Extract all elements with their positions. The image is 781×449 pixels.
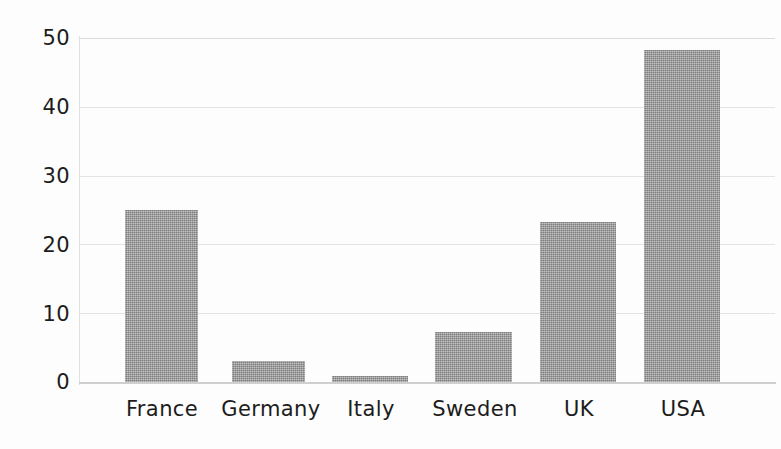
x-tick-label-usa: USA (637, 396, 729, 422)
y-tick-label-50: 50 (8, 28, 70, 49)
bar-uk (540, 222, 616, 382)
y-tick-label-20: 20 (8, 235, 70, 256)
x-axis-line (79, 382, 776, 384)
bar-france (125, 210, 198, 382)
gridline-50 (80, 38, 775, 39)
y-tick-label-30: 30 (8, 166, 70, 187)
x-tick-label-italy: Italy (320, 396, 422, 422)
x-tick-label-sweden: Sweden (415, 396, 535, 422)
y-tick-label-10: 10 (8, 304, 70, 325)
y-axis-line (79, 36, 80, 385)
plot-area (80, 38, 775, 382)
y-tick-label-0: 0 (8, 372, 70, 393)
x-axis-tick-labels: France Germany Italy Sweden UK USA (0, 396, 781, 430)
y-axis-tick-labels: 50 40 30 20 10 0 (0, 0, 70, 449)
bar-sweden (435, 332, 512, 382)
y-tick-label-40: 40 (8, 97, 70, 118)
bar-chart: 50 40 30 20 10 0 France Germany Italy Sw… (0, 0, 781, 449)
bar-germany (232, 361, 305, 382)
bar-chart-screenshot: 50 40 30 20 10 0 France Germany Italy Sw… (0, 0, 781, 449)
x-tick-label-germany: Germany (209, 396, 333, 422)
x-tick-label-uk: UK (542, 396, 616, 422)
bar-usa (644, 50, 720, 382)
x-tick-label-france: France (103, 396, 221, 422)
